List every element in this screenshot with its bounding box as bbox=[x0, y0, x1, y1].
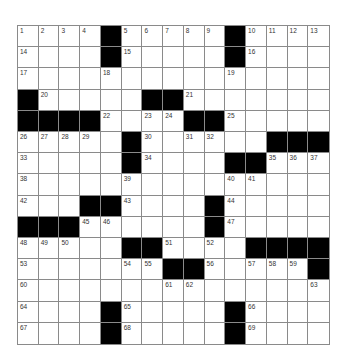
grid-cell[interactable] bbox=[267, 302, 288, 323]
grid-cell[interactable] bbox=[39, 302, 60, 323]
grid-cell[interactable]: 6 bbox=[142, 26, 163, 47]
grid-cell[interactable] bbox=[80, 259, 101, 280]
grid-cell[interactable] bbox=[246, 280, 267, 301]
grid-cell[interactable] bbox=[80, 174, 101, 195]
grid-cell[interactable] bbox=[184, 47, 205, 68]
grid-cell[interactable] bbox=[288, 280, 309, 301]
grid-cell[interactable] bbox=[267, 47, 288, 68]
grid-cell[interactable] bbox=[163, 323, 184, 344]
grid-cell[interactable] bbox=[246, 90, 267, 111]
grid-cell[interactable] bbox=[163, 153, 184, 174]
grid-cell[interactable] bbox=[59, 302, 80, 323]
grid-cell[interactable] bbox=[184, 174, 205, 195]
grid-cell[interactable]: 40 bbox=[225, 174, 246, 195]
grid-cell[interactable] bbox=[163, 196, 184, 217]
grid-cell[interactable]: 19 bbox=[225, 68, 246, 89]
grid-cell[interactable] bbox=[39, 47, 60, 68]
grid-cell[interactable]: 56 bbox=[205, 259, 226, 280]
grid-cell[interactable] bbox=[246, 217, 267, 238]
grid-cell[interactable]: 4 bbox=[80, 26, 101, 47]
grid-cell[interactable] bbox=[308, 323, 329, 344]
grid-cell[interactable]: 2 bbox=[39, 26, 60, 47]
grid-cell[interactable]: 37 bbox=[308, 153, 329, 174]
grid-cell[interactable] bbox=[142, 323, 163, 344]
grid-cell[interactable]: 41 bbox=[246, 174, 267, 195]
grid-cell[interactable] bbox=[39, 174, 60, 195]
grid-cell[interactable] bbox=[101, 280, 122, 301]
grid-cell[interactable] bbox=[101, 259, 122, 280]
grid-cell[interactable] bbox=[39, 259, 60, 280]
grid-cell[interactable] bbox=[288, 68, 309, 89]
grid-cell[interactable] bbox=[288, 47, 309, 68]
grid-cell[interactable] bbox=[39, 68, 60, 89]
grid-cell[interactable] bbox=[205, 174, 226, 195]
grid-cell[interactable] bbox=[246, 111, 267, 132]
grid-cell[interactable]: 57 bbox=[246, 259, 267, 280]
grid-cell[interactable] bbox=[142, 302, 163, 323]
grid-cell[interactable] bbox=[80, 153, 101, 174]
grid-cell[interactable]: 39 bbox=[122, 174, 143, 195]
grid-cell[interactable]: 59 bbox=[288, 259, 309, 280]
grid-cell[interactable]: 62 bbox=[184, 280, 205, 301]
grid-cell[interactable] bbox=[142, 217, 163, 238]
grid-cell[interactable]: 16 bbox=[246, 47, 267, 68]
grid-cell[interactable] bbox=[225, 280, 246, 301]
grid-cell[interactable] bbox=[39, 196, 60, 217]
grid-cell[interactable]: 13 bbox=[308, 26, 329, 47]
grid-cell[interactable] bbox=[184, 323, 205, 344]
grid-cell[interactable] bbox=[80, 302, 101, 323]
grid-cell[interactable]: 51 bbox=[163, 238, 184, 259]
grid-cell[interactable]: 15 bbox=[122, 47, 143, 68]
grid-cell[interactable] bbox=[142, 196, 163, 217]
grid-cell[interactable] bbox=[288, 323, 309, 344]
grid-cell[interactable]: 11 bbox=[267, 26, 288, 47]
grid-cell[interactable]: 47 bbox=[225, 217, 246, 238]
grid-cell[interactable] bbox=[205, 90, 226, 111]
grid-cell[interactable] bbox=[80, 280, 101, 301]
grid-cell[interactable] bbox=[101, 174, 122, 195]
grid-cell[interactable] bbox=[163, 132, 184, 153]
grid-cell[interactable] bbox=[308, 90, 329, 111]
grid-cell[interactable] bbox=[59, 323, 80, 344]
grid-cell[interactable]: 5 bbox=[122, 26, 143, 47]
grid-cell[interactable]: 23 bbox=[142, 111, 163, 132]
grid-cell[interactable] bbox=[101, 132, 122, 153]
grid-cell[interactable] bbox=[80, 90, 101, 111]
grid-cell[interactable] bbox=[308, 174, 329, 195]
grid-cell[interactable] bbox=[308, 302, 329, 323]
grid-cell[interactable] bbox=[225, 259, 246, 280]
grid-cell[interactable] bbox=[246, 132, 267, 153]
grid-cell[interactable] bbox=[225, 90, 246, 111]
grid-cell[interactable] bbox=[246, 196, 267, 217]
grid-cell[interactable]: 14 bbox=[18, 47, 39, 68]
grid-cell[interactable]: 68 bbox=[122, 323, 143, 344]
grid-cell[interactable]: 52 bbox=[205, 238, 226, 259]
grid-cell[interactable]: 58 bbox=[267, 259, 288, 280]
grid-cell[interactable] bbox=[267, 196, 288, 217]
grid-cell[interactable] bbox=[205, 47, 226, 68]
grid-cell[interactable] bbox=[267, 90, 288, 111]
grid-cell[interactable] bbox=[163, 217, 184, 238]
grid-cell[interactable] bbox=[308, 111, 329, 132]
grid-cell[interactable] bbox=[122, 217, 143, 238]
grid-cell[interactable] bbox=[205, 68, 226, 89]
grid-cell[interactable] bbox=[122, 90, 143, 111]
grid-cell[interactable]: 54 bbox=[122, 259, 143, 280]
grid-cell[interactable] bbox=[308, 68, 329, 89]
grid-cell[interactable] bbox=[288, 196, 309, 217]
grid-cell[interactable] bbox=[122, 111, 143, 132]
grid-cell[interactable]: 35 bbox=[267, 153, 288, 174]
grid-cell[interactable] bbox=[80, 323, 101, 344]
grid-cell[interactable]: 10 bbox=[246, 26, 267, 47]
grid-cell[interactable]: 20 bbox=[39, 90, 60, 111]
grid-cell[interactable] bbox=[59, 280, 80, 301]
grid-cell[interactable] bbox=[59, 47, 80, 68]
grid-cell[interactable]: 43 bbox=[122, 196, 143, 217]
grid-cell[interactable] bbox=[163, 302, 184, 323]
grid-cell[interactable] bbox=[246, 68, 267, 89]
grid-cell[interactable] bbox=[225, 132, 246, 153]
grid-cell[interactable] bbox=[205, 280, 226, 301]
grid-cell[interactable] bbox=[142, 280, 163, 301]
grid-cell[interactable]: 30 bbox=[142, 132, 163, 153]
grid-cell[interactable]: 7 bbox=[163, 26, 184, 47]
